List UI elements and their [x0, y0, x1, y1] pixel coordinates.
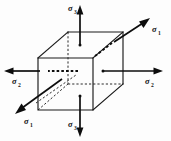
label-sigma-upper-right-subscript: 1	[158, 30, 161, 36]
sigma1-upper-arrowhead	[139, 18, 150, 28]
sigma3-bottom-origin-dot	[79, 95, 82, 98]
label-sigma-left: σ	[12, 76, 17, 86]
hidden-edge-receding-bottom	[38, 84, 68, 110]
label-sigma-right: σ	[145, 76, 150, 86]
sigma1-lower-inner-dashed	[36, 75, 76, 103]
sigma2-right-arrowhead	[154, 68, 164, 75]
sigma2-left-arrowhead	[4, 68, 14, 75]
stress-labels: σ 3 σ 3 σ 2 σ 2 σ 1 σ 1	[12, 3, 161, 131]
stress-cube-diagram: σ 3 σ 3 σ 2 σ 2 σ 1 σ 1	[0, 0, 171, 141]
stress-cube-figure: σ 3 σ 3 σ 2 σ 2 σ 1 σ 1	[0, 0, 171, 141]
label-sigma-lower-left-subscript: 1	[30, 122, 33, 128]
sigma2-arrow-group	[4, 68, 163, 75]
label-sigma-top-subscript: 3	[74, 9, 77, 15]
sigma1-lower-shaft	[22, 79, 62, 108]
cube-edge-receding-top-right	[93, 32, 123, 58]
sigma1-lower-arrowhead	[15, 104, 26, 115]
sigma2-right-origin-dot	[102, 70, 105, 73]
cube-edge-receding-bottom-right	[93, 84, 123, 110]
cube-edge-receding-top-left	[38, 32, 68, 58]
sigma3-top-origin-dot	[79, 44, 82, 47]
label-sigma-lower-left: σ	[24, 116, 29, 126]
label-sigma-bottom: σ	[68, 119, 73, 129]
label-sigma-left-subscript: 2	[18, 82, 21, 88]
label-sigma-top: σ	[68, 3, 73, 13]
label-sigma-right-subscript: 2	[151, 82, 154, 88]
label-sigma-upper-right: σ	[152, 24, 157, 34]
sigma3-bottom-arrowhead	[77, 128, 84, 138]
cube-front-face	[38, 58, 93, 110]
label-sigma-bottom-subscript: 3	[74, 125, 77, 131]
sigma3-top-arrowhead	[77, 5, 84, 15]
